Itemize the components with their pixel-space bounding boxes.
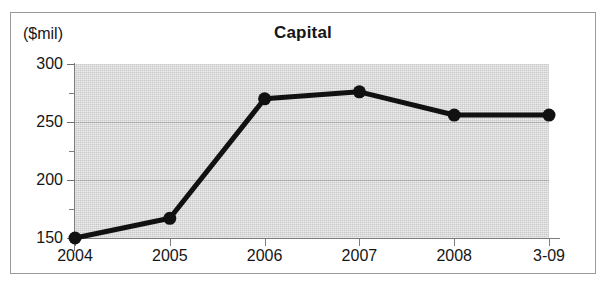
y-tick-label: 150 xyxy=(17,229,63,247)
y-tick-label: 300 xyxy=(17,55,63,73)
plot-area xyxy=(75,64,549,238)
gridline xyxy=(75,122,549,123)
x-tick xyxy=(454,238,455,246)
y-tick xyxy=(67,122,75,123)
chart-card: Capital ($mil) 150200250300 200420052006… xyxy=(10,12,596,274)
x-tick-label: 2004 xyxy=(35,247,115,265)
x-tick xyxy=(170,238,171,246)
scan-texture xyxy=(75,64,549,238)
y-axis-line xyxy=(74,63,75,251)
y-tick-label: 250 xyxy=(17,113,63,131)
y-tick-minor xyxy=(69,93,75,94)
gridline xyxy=(75,180,549,181)
y-tick-minor xyxy=(69,151,75,152)
x-tick-label: 2007 xyxy=(319,247,399,265)
x-tick-label: 2006 xyxy=(225,247,305,265)
x-tick xyxy=(265,238,266,246)
y-tick-minor xyxy=(69,209,75,210)
x-tick-label: 2008 xyxy=(414,247,494,265)
y-tick-label: 200 xyxy=(17,171,63,189)
y-axis-unit-label: ($mil) xyxy=(23,25,63,43)
x-axis-line xyxy=(74,238,560,239)
x-tick-label: 2005 xyxy=(130,247,210,265)
y-tick xyxy=(67,180,75,181)
y-tick xyxy=(67,64,75,65)
x-tick xyxy=(549,238,550,246)
x-tick-label: 3-09 xyxy=(509,247,589,265)
x-tick xyxy=(359,238,360,246)
chart-title: Capital xyxy=(11,23,595,43)
x-tick xyxy=(75,238,76,246)
y-tick xyxy=(67,238,75,239)
